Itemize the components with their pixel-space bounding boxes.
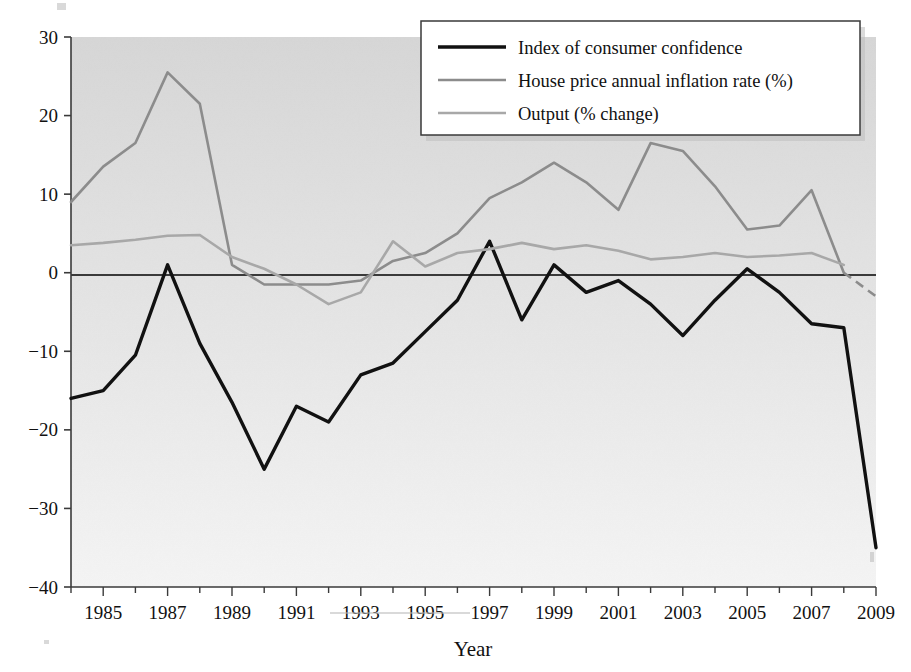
y-tick-label: −20 xyxy=(28,419,58,440)
x-tick-label: 1997 xyxy=(471,602,509,623)
x-tick-label: 2003 xyxy=(664,602,702,623)
scan-artifact xyxy=(57,3,66,10)
y-tick-label: 0 xyxy=(49,262,59,283)
y-tick-label: −30 xyxy=(28,498,58,519)
legend-label-1: House price annual inflation rate (%) xyxy=(518,71,793,92)
legend-label-2: Output (% change) xyxy=(518,104,659,125)
scan-artifact xyxy=(44,640,49,644)
y-tick-label: −40 xyxy=(28,577,58,598)
x-axis-title: Year xyxy=(454,637,493,661)
x-tick-label: 2005 xyxy=(728,602,766,623)
scan-artifact xyxy=(330,612,470,614)
legend-label-0: Index of consumer confidence xyxy=(518,38,742,58)
y-tick-label: 10 xyxy=(39,184,58,205)
y-tick-label: 30 xyxy=(39,27,58,48)
x-tick-label: 2001 xyxy=(599,602,637,623)
x-tick-label: 1987 xyxy=(149,602,187,623)
y-tick-label: 20 xyxy=(39,105,58,126)
x-tick-label: 1991 xyxy=(277,602,315,623)
legend[interactable]: Index of consumer confidenceHouse price … xyxy=(421,21,865,141)
x-tick-label: 1989 xyxy=(213,602,251,623)
x-axis: 1985198719891991199319951997199920012003… xyxy=(71,587,895,623)
y-tick-label: −10 xyxy=(28,341,58,362)
figure-container: −40−30−20−100102030 19851987198919911993… xyxy=(0,0,911,672)
line-chart: −40−30−20−100102030 19851987198919911993… xyxy=(0,0,911,672)
x-tick-label: 1985 xyxy=(84,602,122,623)
scan-artifact xyxy=(870,552,874,562)
x-tick-label: 2009 xyxy=(857,602,895,623)
x-tick-label: 2007 xyxy=(793,602,831,623)
y-axis: −40−30−20−100102030 xyxy=(28,27,71,598)
x-tick-label: 1999 xyxy=(535,602,573,623)
